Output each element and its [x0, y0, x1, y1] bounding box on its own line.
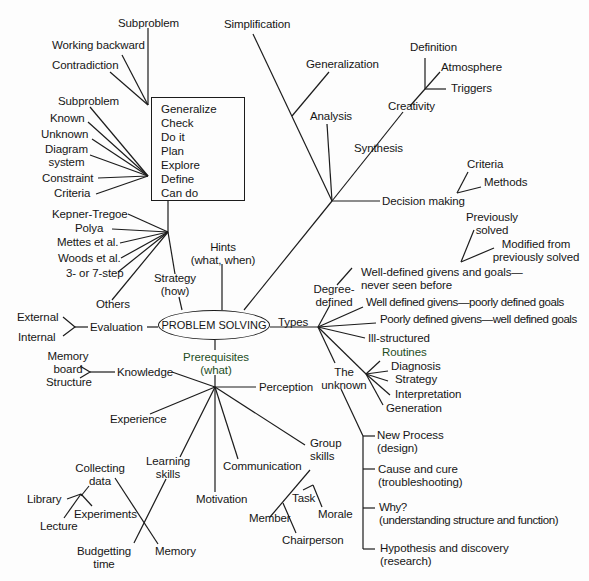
unknown-new-process: New Process (design) — [377, 429, 444, 455]
collecting-experiments: Experiments — [74, 508, 137, 521]
degree-line2: defined — [312, 296, 356, 309]
learning-memory: Memory — [155, 545, 196, 558]
new-process-line2: (design) — [377, 442, 444, 455]
hypothesis-line2: (research) — [380, 555, 509, 568]
group-task: Task — [292, 492, 315, 505]
prev-line1: Previously — [462, 211, 522, 224]
define-input-constraint: Constraint — [42, 172, 93, 185]
group-member: Member — [249, 512, 291, 525]
budgetting-line1: Budgetting — [75, 545, 133, 558]
creativity-atmosphere: Atmosphere — [441, 61, 502, 74]
central-node-problem-solving: PROBLEM SOLVING — [158, 310, 270, 340]
knowledge-structure: Structure — [46, 376, 92, 389]
budgetting-line2: time — [75, 558, 133, 571]
new-process-line1: New Process — [377, 429, 444, 442]
collecting-data-label: Collecting data — [72, 462, 128, 488]
evaluation-internal: Internal — [18, 331, 56, 344]
unknown-cause-and-cure: Cause and cure (troubleshooting) — [378, 463, 463, 489]
unknown-hypothesis: Hypothesis and discovery (research) — [380, 542, 509, 568]
strategy-steps-box: Generalize Check Do it Plan Explore Defi… — [151, 97, 245, 201]
routine-diagnosis: Diagnosis — [391, 360, 441, 373]
step-plan: Plan — [161, 144, 244, 158]
why-line1: Why? — [379, 501, 558, 514]
method-woods: Woods et al. — [58, 252, 121, 265]
group-skills-label: Group skills — [310, 437, 341, 463]
hints-line2: (what, when) — [188, 254, 258, 267]
diagram-line1: Diagram — [44, 143, 89, 156]
routine-interpretation: Interpretation — [395, 388, 461, 401]
budgetting-time-label: Budgetting time — [75, 545, 133, 571]
prereq-perception: Perception — [259, 381, 313, 394]
thinking-simplification: Simplification — [224, 18, 290, 31]
knowledge-memory-board: Memory board — [46, 350, 90, 376]
step-explore: Explore — [161, 158, 244, 172]
mod-line2: previously solved — [487, 251, 585, 264]
diagram-line2: system — [44, 156, 89, 169]
prereq-communication: Communication — [223, 460, 302, 473]
evaluation-external: External — [17, 311, 58, 324]
unknown-line1: The — [320, 366, 368, 379]
prerequisites-label: Prerequisites (what) — [180, 351, 252, 377]
thinking-analysis: Analysis — [310, 110, 352, 123]
why-line2: (understanding structure and function) — [379, 514, 558, 527]
explore-input-contradiction: Contradiction — [52, 59, 118, 72]
cause-line2: (troubleshooting) — [378, 476, 463, 489]
step-do-it: Do it — [161, 130, 244, 144]
creativity-definition: Definition — [410, 41, 457, 54]
type-well-defined-givens-poorly-goals: Well defined givens—poorly defined goals — [366, 296, 564, 309]
type-poorly-givens-well-goals: Poorly defined givens—well defined goals — [380, 313, 577, 326]
define-input-criteria: Criteria — [54, 187, 90, 200]
thinking-decision-making: Decision making — [382, 195, 465, 208]
routine-strategy: Strategy — [395, 373, 437, 386]
collecting-line1: Collecting — [72, 462, 128, 475]
creativity-label: Creativity — [388, 100, 435, 113]
type-ill-structured: Ill-structured — [368, 332, 430, 345]
thinking-generalization: Generalization — [306, 58, 379, 71]
define-input-unknown: Unknown — [41, 128, 88, 141]
define-input-diagram-system: Diagram system — [44, 143, 89, 169]
problem-solving-concept-map: Generalize Check Do it Plan Explore Defi… — [0, 0, 589, 581]
hints-line1: Hints — [188, 241, 258, 254]
method-kepner-tregoe: Kepner-Tregoe — [52, 208, 128, 221]
knowledge-label: Knowledge — [117, 366, 173, 379]
wd-line2: never seen before — [361, 279, 523, 292]
collecting-line2: data — [72, 475, 128, 488]
hypothesis-line1: Hypothesis and discovery — [380, 542, 509, 555]
step-define: Define — [161, 172, 244, 186]
type-well-defined-never-seen: Well-defined givens and goals— never see… — [361, 266, 523, 292]
memory-line1: Memory — [46, 350, 90, 363]
decision-criteria: Criteria — [467, 158, 503, 171]
step-can-do: Can do — [161, 186, 244, 200]
step-check: Check — [161, 116, 244, 130]
prerequisites-line1: Prerequisites — [180, 351, 252, 364]
unknown-why: Why? (understanding structure and functi… — [379, 501, 558, 527]
explore-input-working-backward: Working backward — [52, 39, 145, 52]
thinking-synthesis: Synthesis — [354, 142, 403, 155]
learning-line2: skills — [146, 468, 190, 481]
decision-methods: Methods — [484, 176, 527, 189]
cause-line1: Cause and cure — [378, 463, 463, 476]
method-others: Others — [96, 298, 130, 311]
mod-line1: Modified from — [487, 238, 585, 251]
prereq-motivation: Motivation — [196, 493, 247, 506]
strategy-line1: Strategy — [153, 272, 197, 285]
evaluation-label: Evaluation — [90, 321, 143, 334]
unknown-line2: unknown — [320, 379, 368, 392]
strategy-line2: (how) — [153, 285, 197, 298]
routine-generation: Generation — [386, 402, 442, 415]
modified-from-previously-solved: Modified from previously solved — [487, 238, 585, 264]
define-input-known: Known — [50, 112, 85, 125]
previously-solved: Previously solved — [462, 211, 522, 237]
group-line2: skills — [310, 450, 341, 463]
prerequisites-line2: (what) — [180, 364, 252, 377]
creativity-triggers: Triggers — [451, 82, 492, 95]
prev-line2: solved — [462, 224, 522, 237]
step-generalize: Generalize — [161, 102, 244, 116]
hints-label: Hints (what, when) — [188, 241, 258, 267]
collecting-library: Library — [27, 493, 61, 506]
wd-line1: Well-defined givens and goals— — [361, 266, 523, 279]
method-polya: Polya — [75, 222, 103, 235]
group-chairperson: Chairperson — [282, 534, 344, 547]
prereq-experience: Experience — [110, 413, 167, 426]
collecting-lecture: Lecture — [40, 520, 78, 533]
